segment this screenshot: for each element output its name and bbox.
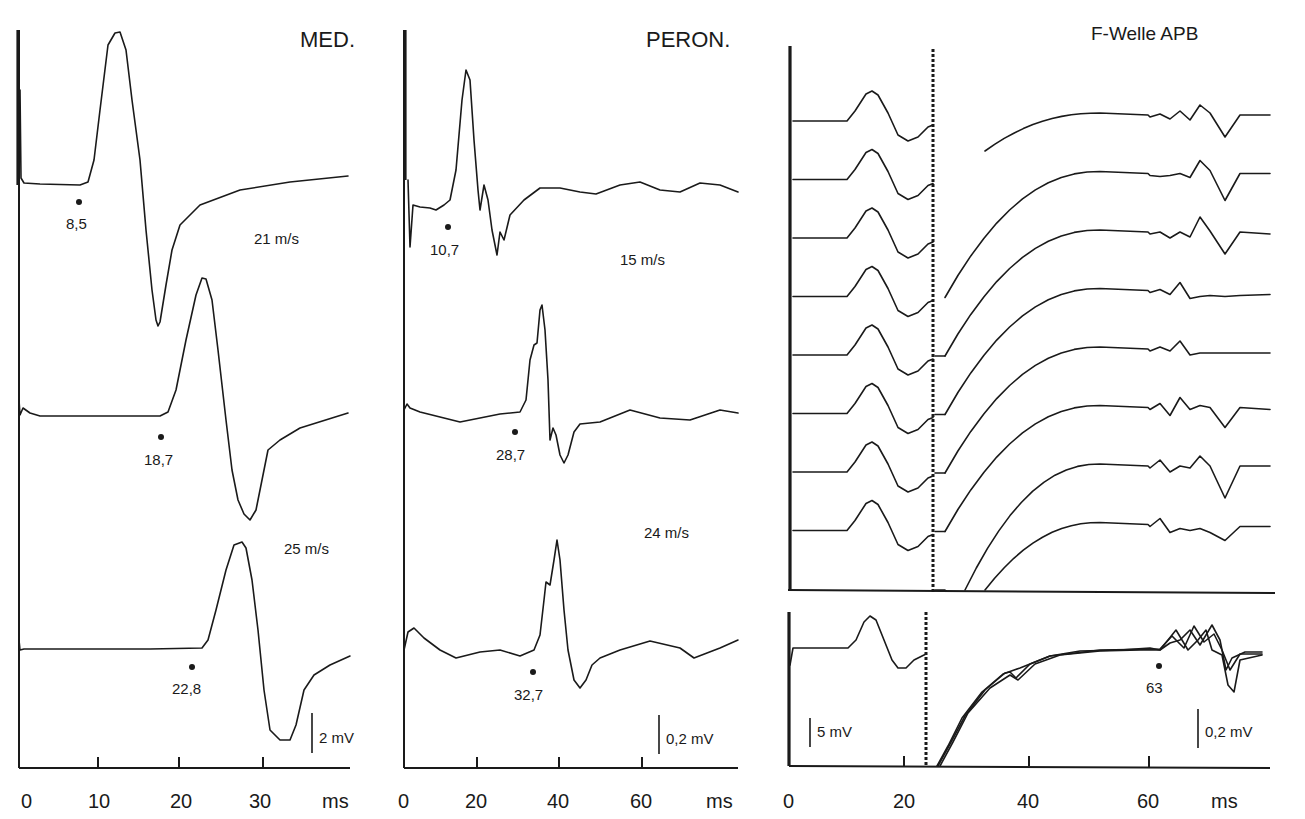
latency-marker [1156, 663, 1162, 669]
latency-marker [158, 434, 164, 440]
x-unit-label: ms [322, 790, 349, 812]
fwave-late-response-trace [945, 341, 1270, 473]
latency-label: 32,7 [514, 686, 543, 703]
fwave-late-response-trace [945, 217, 1270, 356]
velocity-label: 25 m/s [284, 540, 329, 557]
scale-label-fwave-right: 0,2 mV [1205, 723, 1253, 740]
latency-marker [76, 199, 82, 205]
peron-trace-2 [404, 305, 738, 463]
velocity-label: 15 m/s [620, 251, 665, 268]
tick-label: 20 [465, 790, 487, 812]
peron-trace-3 [404, 540, 738, 688]
tick-label: 60 [630, 790, 652, 812]
velocity-label: 24 m/s [644, 524, 689, 541]
fwave-m-response-trace [793, 501, 933, 551]
med-trace-3 [19, 542, 350, 740]
fwave-stacked-traces [793, 91, 1270, 590]
fwave-m-response-trace [793, 384, 933, 434]
fwave-late-response-trace [945, 161, 1270, 298]
tick-label: 10 [88, 790, 110, 812]
x-axis-fwave [789, 766, 1270, 768]
fwave-m-response-trace [793, 325, 933, 375]
latency-marker [189, 664, 195, 670]
fwave-late-response-trace [945, 283, 1270, 415]
tick-label: 20 [893, 790, 915, 812]
fwave-m-response [790, 616, 926, 668]
fwave-late-response-trace [985, 105, 1270, 151]
scale-label-peron: 0,2 mV [666, 730, 714, 747]
fwave-m-response-trace [793, 208, 933, 258]
latency-label: 63 [1146, 679, 1163, 696]
fwave-superimposed-traces [937, 625, 1262, 766]
panel-fwave: F-Welle APB 63 5 mV 0,2 mV 0 20 40 60 ms [783, 23, 1275, 812]
latency-label: 28,7 [496, 446, 525, 463]
panel-peron: PERON. 10,7 15 m/s 28,7 24 m/s 32,7 0,2 … [398, 27, 738, 812]
panel-title-med: MED. [300, 27, 355, 52]
tick-label: 0 [21, 790, 32, 812]
tick-label: 40 [547, 790, 569, 812]
fwave-m-response-trace [793, 91, 933, 141]
x-axis-fwave-upper [788, 590, 1275, 593]
tick-label: 30 [249, 790, 271, 812]
scale-label-fwave-left: 5 mV [817, 723, 852, 740]
latency-marker [530, 669, 536, 675]
panel-med: MED. 8,5 21 m/s 18,7 25 m/s 22,8 2 mV 0 … [18, 27, 355, 812]
tick-label: 20 [170, 790, 192, 812]
panel-title-peron: PERON. [646, 27, 730, 52]
latency-marker [445, 224, 451, 230]
emg-figure: MED. 8,5 21 m/s 18,7 25 m/s 22,8 2 mV 0 … [0, 0, 1305, 819]
tick-label: 0 [398, 790, 409, 812]
peron-trace-1 [408, 70, 738, 255]
scale-label-med: 2 mV [319, 729, 354, 746]
fwave-m-response-trace [793, 267, 933, 317]
x-unit-label: ms [706, 790, 733, 812]
latency-label: 22,8 [172, 680, 201, 697]
tick-label: 60 [1137, 790, 1159, 812]
velocity-label: 21 m/s [254, 230, 299, 247]
med-trace-1 [20, 32, 348, 326]
fwave-m-response-trace [793, 150, 933, 200]
latency-label: 8,5 [66, 215, 87, 232]
latency-marker [512, 429, 518, 435]
panel-title-fwave: F-Welle APB [1091, 23, 1198, 44]
latency-label: 18,7 [144, 451, 173, 468]
latency-label: 10,7 [430, 241, 459, 258]
med-trace-2 [19, 278, 348, 520]
tick-label: 40 [1017, 790, 1039, 812]
x-unit-label: ms [1211, 790, 1238, 812]
fwave-late-response-trace [985, 519, 1270, 591]
tick-label: 0 [783, 790, 794, 812]
fwave-m-response-trace [793, 442, 933, 492]
